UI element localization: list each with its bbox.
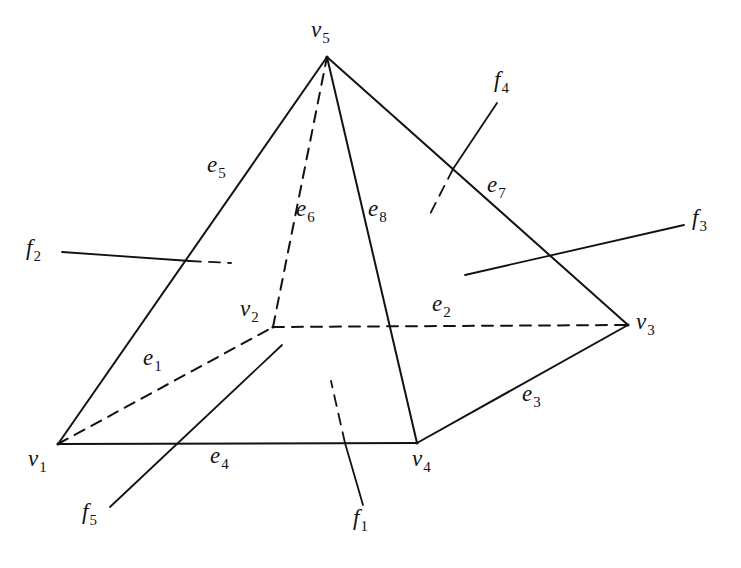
- edge-line-e5: [58, 57, 327, 444]
- vertex-label-v2: v2: [240, 297, 258, 320]
- edge-label-base-e6: e: [296, 196, 306, 221]
- edge-label-base-e2: e: [432, 291, 442, 316]
- face-label-subscript-f4: 4: [501, 80, 509, 96]
- face-label-base-f2: f: [26, 235, 32, 260]
- edge-label-e5: e5: [207, 153, 225, 176]
- face-label-subscript-f5: 5: [89, 512, 97, 528]
- vertex-dot-v3: [626, 323, 629, 326]
- leader-line-f1: [345, 443, 363, 505]
- vertex-label-subscript-v4: 4: [423, 459, 431, 475]
- edge-line-e8: [327, 57, 417, 443]
- edge-label-base-e1: e: [143, 345, 153, 370]
- edge-label-subscript-e5: 5: [218, 165, 226, 181]
- vertex-label-subscript-v3: 3: [647, 322, 655, 338]
- pyramid-diagram-svg: [0, 0, 741, 568]
- edge-label-e2: e2: [432, 292, 450, 315]
- face-label-subscript-f1: 1: [360, 518, 368, 534]
- vertex-label-v4: v4: [412, 447, 430, 470]
- leader-line-dashed-f2: [190, 261, 231, 263]
- vertex-dot-v4: [415, 441, 418, 444]
- edge-label-base-e3: e: [522, 381, 532, 406]
- edge-label-subscript-e3: 3: [533, 394, 541, 410]
- edge-label-base-e5: e: [207, 152, 217, 177]
- vertex-label-v1: v1: [28, 447, 46, 470]
- figure-canvas: v1v2v3v4v5e1e2e3e4e5e6e7e8f1f2f3f4f5: [0, 0, 741, 568]
- face-label-base-f4: f: [494, 67, 500, 92]
- edge-label-base-e7: e: [487, 172, 497, 197]
- edge-label-e1: e1: [143, 346, 161, 369]
- vertex-label-v5: v5: [311, 18, 329, 41]
- edge-label-e7: e7: [487, 173, 505, 196]
- leader-line-dashed-f4: [428, 169, 453, 218]
- face-label-base-f5: f: [82, 499, 88, 524]
- face-label-subscript-f2: 2: [33, 248, 41, 264]
- edge-label-subscript-e4: 4: [221, 456, 229, 472]
- edge-label-e3: e3: [522, 382, 540, 405]
- edge-line-e7: [327, 57, 628, 325]
- face-label-base-f1: f: [353, 505, 359, 530]
- edge-label-e6: e6: [296, 197, 314, 220]
- vertex-label-base-v1: v: [28, 446, 38, 471]
- edge-line-group: [56, 55, 629, 445]
- face-label-f2: f2: [26, 236, 40, 259]
- vertex-label-base-v5: v: [311, 17, 321, 42]
- vertex-label-base-v2: v: [240, 296, 250, 321]
- edge-line-e2: [273, 325, 628, 327]
- edge-label-base-e8: e: [368, 196, 378, 221]
- leader-line-f3: [465, 225, 684, 275]
- vertex-label-subscript-v5: 5: [322, 30, 330, 46]
- edge-line-e4: [58, 443, 417, 444]
- edge-label-subscript-e8: 8: [379, 209, 387, 225]
- edge-label-e8: e8: [368, 197, 386, 220]
- vertex-label-v3: v3: [636, 310, 654, 333]
- face-label-base-f3: f: [692, 205, 698, 230]
- edge-label-e4: e4: [210, 444, 228, 467]
- edge-label-subscript-e2: 2: [443, 304, 451, 320]
- face-label-f3: f3: [692, 206, 706, 229]
- vertex-label-base-v3: v: [636, 309, 646, 334]
- face-label-f5: f5: [82, 500, 96, 523]
- vertex-dot-v1: [56, 442, 59, 445]
- face-label-subscript-f3: 3: [699, 218, 707, 234]
- edge-label-subscript-e1: 1: [154, 358, 162, 374]
- face-label-f1: f1: [353, 506, 367, 529]
- edge-label-subscript-e7: 7: [498, 185, 506, 201]
- edge-line-e1: [58, 327, 273, 444]
- vertex-label-subscript-v1: 1: [39, 459, 47, 475]
- leader-line-f4: [453, 103, 497, 169]
- edge-label-base-e4: e: [210, 443, 220, 468]
- vertex-dot-v2: [271, 325, 274, 328]
- vertex-dot-v5: [325, 55, 328, 58]
- vertex-label-subscript-v2: 2: [251, 309, 259, 325]
- leader-line-f2: [62, 252, 190, 261]
- vertex-label-base-v4: v: [412, 446, 422, 471]
- face-label-f4: f4: [494, 68, 508, 91]
- edge-label-subscript-e6: 6: [307, 209, 315, 225]
- leader-line-dashed-f1: [331, 381, 345, 443]
